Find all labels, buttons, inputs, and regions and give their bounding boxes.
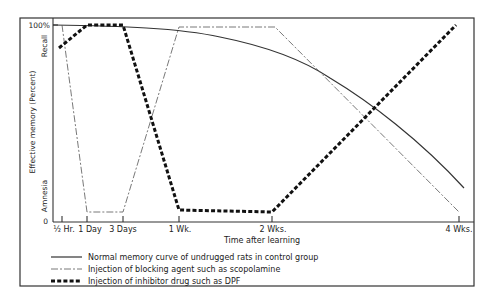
y-label-0: 0 — [43, 217, 48, 226]
series-normal — [53, 25, 464, 188]
legend-label-normal: Normal memory curve of undrugged rats in… — [88, 253, 318, 262]
y-label-100: 100% — [29, 21, 50, 30]
y-axis-title: Effective memory (Percent) — [28, 70, 37, 173]
x-label-3-days: 3 Days — [109, 225, 137, 234]
legend: Normal memory curve of undrugged rats in… — [51, 253, 318, 286]
series-blocking-agent — [62, 25, 459, 212]
x-label-4-wks: 4 Wks. — [446, 225, 473, 234]
x-label-1-day: 1 Day — [78, 225, 102, 234]
x-axis-title: Time after learning — [223, 236, 300, 245]
chart-frame — [20, 18, 474, 286]
amnesia-label: Amnesia — [40, 180, 49, 212]
x-label-half-hr: ½ Hr. — [53, 225, 74, 234]
x-label-2-wks: 2 Wks. — [260, 225, 287, 234]
memory-chart: 100% 0 Recall Amnesia Effective memory (… — [0, 0, 492, 305]
legend-label-blocking: Injection of blocking agent such as scop… — [88, 265, 280, 274]
x-label-1-wk: 1 Wk. — [169, 225, 192, 234]
legend-label-inhibitor: Injection of inhibitor drug such as DPF — [88, 277, 241, 286]
recall-label: Recall — [40, 35, 49, 57]
series-inhibitor — [59, 25, 456, 212]
